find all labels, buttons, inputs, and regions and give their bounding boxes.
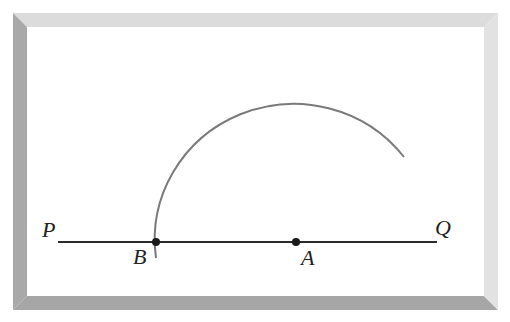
picture-frame: [13, 13, 498, 310]
frame-bottom: [13, 296, 498, 310]
frame-right: [484, 13, 498, 310]
point-b: [152, 238, 160, 246]
label-a: A: [299, 245, 315, 270]
frame-top: [13, 13, 498, 27]
frame-inner: [27, 27, 484, 296]
label-q: Q: [435, 215, 451, 240]
label-b: B: [133, 244, 146, 269]
frame-left: [13, 13, 27, 310]
geometry-diagram: P Q B A: [0, 0, 510, 322]
label-p: P: [41, 217, 55, 242]
point-a: [292, 238, 300, 246]
